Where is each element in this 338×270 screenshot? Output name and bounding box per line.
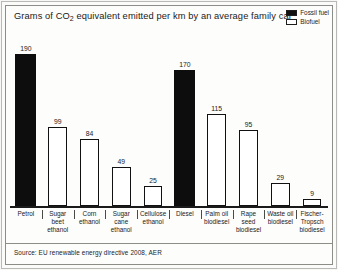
category-label-petrol: Petrol: [10, 210, 42, 218]
bar-value-label: 99: [54, 118, 62, 126]
source-note: Source: EU renewable energy directive 20…: [14, 249, 162, 256]
category-label-line: ethanol: [137, 218, 169, 226]
bar-group: 84: [80, 130, 98, 206]
bar-cellulose-ethanol: [144, 186, 162, 206]
plot-area: 1909984492517011595299: [10, 27, 328, 208]
bar-sugar-cane-ethanol: [112, 167, 130, 206]
bar-group: 25: [144, 177, 162, 206]
category-label-line: Cellulose: [137, 210, 169, 218]
category-label-fischer-tropsch-biodiesel: Fischer-Tropschbiodiesel: [296, 210, 328, 235]
category-label-waste-oil-biodiesel: Waste oilbiodiesel: [264, 210, 296, 226]
filled-black-square-icon: [286, 10, 297, 16]
bar-value-label: 115: [211, 105, 222, 113]
category-label-line: Fischer-: [296, 210, 328, 218]
bar-petrol: [15, 54, 36, 206]
category-label-line: biodiesel: [201, 218, 233, 226]
bar-waste-oil-biodiesel: [271, 183, 289, 206]
bar-group: 95: [239, 121, 257, 206]
category-label-line: Sugar: [105, 210, 137, 218]
outlined-white-square-icon: [286, 19, 297, 25]
bar-sugar-beet-ethanol: [48, 127, 66, 206]
category-label-palm-oil-biodiesel: Palm oilbiodiesel: [201, 210, 233, 226]
chart-title-suffix: equivalent emitted per km by an average …: [74, 11, 292, 21]
bar-diesel: [174, 70, 195, 206]
figure-clipping: Grams of CO2 equivalent emitted per km b…: [0, 0, 338, 270]
bar-palm-oil-biodiesel: [207, 114, 225, 206]
legend-item-fossil-fuel: Fossil fuel: [286, 9, 329, 16]
bar-value-label: 95: [245, 121, 253, 129]
source-region: Source: EU renewable energy directive 20…: [5, 243, 333, 265]
category-separator-tick: [137, 210, 138, 219]
bar-rape-seed-biodiesel: [239, 130, 257, 206]
bar-group: 190: [15, 45, 36, 206]
legend-label-fossil-fuel: Fossil fuel: [300, 9, 329, 16]
category-label-line: Waste oil: [264, 210, 296, 218]
bar-fischer-tropsch-biodiesel: [303, 199, 321, 206]
category-label-cellulose-ethanol: Celluloseethanol: [137, 210, 169, 226]
chart-title-prefix: Grams of CO: [14, 11, 70, 21]
category-label-line: ethanol: [42, 226, 74, 234]
category-label-line: biodiesel: [233, 226, 265, 234]
bar-value-label: 9: [310, 190, 314, 198]
bar-group: 115: [207, 105, 225, 206]
bar-group: 99: [48, 118, 66, 206]
category-label-rape-seed-biodiesel: Rapeseedbiodiesel: [233, 210, 265, 235]
category-label-line: Petrol: [10, 210, 42, 218]
bar-group: 49: [112, 158, 130, 206]
bar-value-label: 29: [277, 174, 285, 182]
category-separator-tick: [264, 210, 265, 219]
category-label-line: cane: [105, 218, 137, 226]
category-label-diesel: Diesel: [169, 210, 201, 218]
bar-corn-ethanol: [80, 139, 98, 206]
category-separator-tick: [42, 210, 43, 219]
category-label-line: ethanol: [105, 226, 137, 234]
bar-value-label: 84: [86, 130, 94, 138]
x-axis-line: [10, 206, 328, 208]
category-label-sugar-beet-ethanol: Sugarbeetethanol: [42, 210, 74, 235]
bar-value-label: 49: [118, 158, 126, 166]
bar-group: 170: [174, 61, 195, 206]
category-separator-tick: [233, 210, 234, 219]
category-label-line: Corn: [74, 210, 106, 218]
category-label-line: biodiesel: [296, 226, 328, 234]
category-label-line: Rape: [233, 210, 265, 218]
category-label-line: beet: [42, 218, 74, 226]
legend: Fossil fuel Biofuel: [286, 9, 329, 25]
category-separator-tick: [105, 210, 106, 219]
category-separator-tick: [169, 210, 170, 219]
category-label-sugar-cane-ethanol: Sugarcaneethanol: [105, 210, 137, 235]
bar-value-label: 170: [179, 61, 190, 69]
category-separator-tick: [201, 210, 202, 219]
legend-item-biofuel: Biofuel: [286, 18, 329, 25]
legend-label-biofuel: Biofuel: [300, 18, 320, 25]
category-label-corn-ethanol: Cornethanol: [74, 210, 106, 226]
category-label-line: biodiesel: [264, 218, 296, 226]
category-label-line: Tropsch: [296, 218, 328, 226]
category-label-line: ethanol: [74, 218, 106, 226]
category-label-band: PetrolSugarbeetethanolCornethanolSugarca…: [10, 210, 328, 244]
bar-value-label: 190: [20, 45, 31, 53]
category-label-line: Diesel: [169, 210, 201, 218]
category-label-line: Sugar: [42, 210, 74, 218]
bar-group: 29: [271, 174, 289, 206]
category-separator-tick: [296, 210, 297, 219]
category-label-line: Palm oil: [201, 210, 233, 218]
bar-group: 9: [303, 190, 321, 206]
bar-value-label: 25: [149, 177, 157, 185]
chart-title: Grams of CO2 equivalent emitted per km b…: [14, 11, 264, 21]
category-label-line: seed: [233, 218, 265, 226]
category-separator-tick: [74, 210, 75, 219]
chart-title-subscript: 2: [70, 15, 74, 22]
